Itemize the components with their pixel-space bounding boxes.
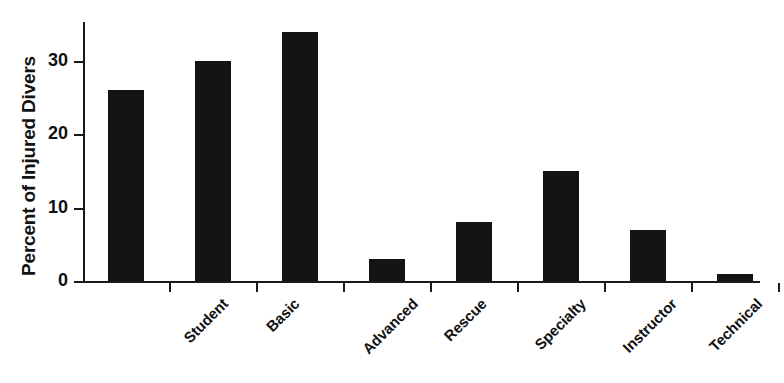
y-tick-label-10: 10 [28,197,68,218]
x-tick-0 [169,283,171,292]
x-label-technical: Technical [706,295,766,355]
y-tick-20: 20 [74,134,83,136]
plot-area: 0102030 StudentBasicAdvancedRescueSpecia… [83,22,760,282]
bar-chart-figure: Percent of Injured Divers 0102030 Studen… [0,0,784,383]
x-axis-line [83,281,760,283]
x-label-basic: Basic [263,295,303,335]
bar-instructor [543,171,579,281]
y-axis-line [83,22,85,283]
y-tick-30: 30 [74,61,83,63]
bar-basic [195,61,231,281]
x-tick-7 [778,283,780,292]
x-tick-6 [691,283,693,292]
bar-rescue [369,259,405,281]
y-axis-title: Percent of Injured Divers [16,31,42,301]
y-tick-10: 10 [74,208,83,210]
bar-advanced [282,32,318,281]
x-label-instructor: Instructor [619,295,680,356]
y-tick-0: 0 [74,281,83,283]
y-tick-label-0: 0 [28,270,68,291]
x-label-rescue: Rescue [440,295,489,344]
y-tick-label-30: 30 [28,50,68,71]
x-tick-5 [604,283,606,292]
x-label-student: Student [180,295,231,346]
x-tick-2 [343,283,345,292]
y-tick-label-20: 20 [28,123,68,144]
x-tick-4 [517,283,519,292]
x-tick-1 [256,283,258,292]
bar-specialty [456,222,492,281]
bar-student [108,90,144,281]
x-label-advanced: Advanced [359,295,421,357]
bar-technical [630,230,666,281]
bar-commercial [717,274,753,281]
x-label-specialty: Specialty [531,295,589,353]
x-tick-3 [430,283,432,292]
